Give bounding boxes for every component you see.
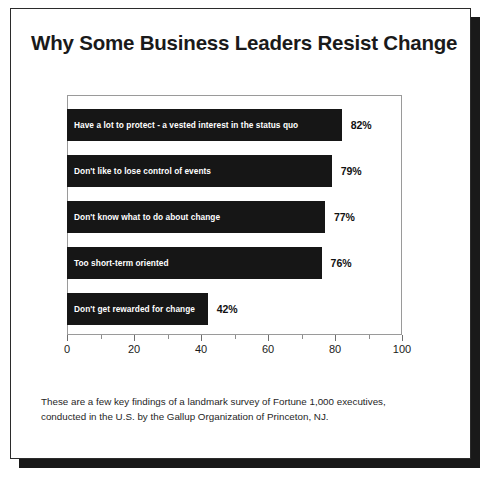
bar-value-label: 79%: [341, 155, 362, 187]
x-axis-tick-label: 100: [393, 343, 411, 355]
x-axis-tick-label: 40: [195, 343, 207, 355]
bar-value-label: 42%: [217, 293, 238, 325]
bar-chart: Have a lot to protect - a vested interes…: [67, 95, 402, 335]
bar-value-label: 76%: [331, 247, 352, 279]
x-axis-tick-label: 0: [64, 343, 70, 355]
x-axis-tick-label: 80: [329, 343, 341, 355]
x-axis-minor-tick: [101, 335, 102, 339]
bar-category-label: Too short-term oriented: [74, 258, 169, 268]
bar-category-label: Don't like to lose control of events: [74, 166, 211, 176]
footnote-line-2: conducted in the U.S. by the Gallup Orga…: [41, 410, 451, 425]
x-axis-tick: [402, 335, 403, 341]
x-axis-tick: [201, 335, 202, 341]
bar: Don't like to lose control of events: [67, 155, 332, 187]
bar: Too short-term oriented: [67, 247, 322, 279]
slide-card: Why Some Business Leaders Resist Change …: [10, 8, 471, 459]
x-axis-tick: [134, 335, 135, 341]
bar-category-label: Don't know what to do about change: [74, 212, 220, 222]
bar-category-label: Have a lot to protect - a vested interes…: [74, 120, 298, 130]
page-title: Why Some Business Leaders Resist Change: [31, 31, 457, 55]
bar-value-label: 77%: [334, 201, 355, 233]
x-axis-minor-tick: [369, 335, 370, 339]
x-axis-tick: [335, 335, 336, 341]
bar-value-label: 82%: [351, 109, 372, 141]
bar: Don't get rewarded for change: [67, 293, 208, 325]
bar-category-label: Don't get rewarded for change: [74, 304, 195, 314]
bar: Have a lot to protect - a vested interes…: [67, 109, 342, 141]
footnote-line-1: These are a few key findings of a landma…: [41, 395, 451, 410]
x-axis-minor-tick: [302, 335, 303, 339]
x-axis-minor-tick: [168, 335, 169, 339]
footnote: These are a few key findings of a landma…: [41, 395, 451, 424]
x-axis-minor-tick: [235, 335, 236, 339]
x-axis: 020406080100: [67, 335, 402, 365]
x-axis-tick: [67, 335, 68, 341]
bar: Don't know what to do about change: [67, 201, 325, 233]
x-axis-tick-label: 60: [262, 343, 274, 355]
x-axis-tick-label: 20: [128, 343, 140, 355]
x-axis-tick: [268, 335, 269, 341]
